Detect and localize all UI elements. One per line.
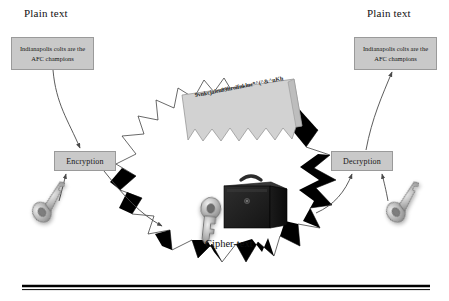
key-icon-left-group (26, 180, 77, 226)
plain-text-message-left: Indianapolis colts are the AFC champions (11, 37, 94, 70)
plain-text-message-right: Indianapolis colts are the AFC champions (354, 37, 437, 70)
connector-key-to-decryption (382, 174, 388, 201)
encryption-box: Encryption (54, 151, 116, 171)
cipher-text-caption: Cipher-text (205, 238, 253, 249)
bottom-divider (22, 286, 430, 290)
plain-text-heading-right: Plain text (367, 7, 411, 19)
plain-text-heading-left: Plain text (24, 7, 68, 19)
connector-plaintext-to-encryption (53, 70, 80, 148)
diagram-canvas: Plain text Plain text Indianapolis colts… (0, 0, 449, 301)
key-icon-right-group (380, 180, 431, 226)
decryption-box: Decryption (331, 151, 393, 171)
connector-decryption-to-plaintext (366, 72, 392, 150)
